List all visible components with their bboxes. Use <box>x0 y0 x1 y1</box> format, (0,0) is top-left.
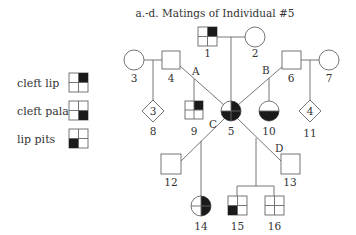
svg-text:13: 13 <box>283 176 296 188</box>
legend-item-lip-pits: lip pits <box>17 129 88 148</box>
individual-3: 3 <box>124 50 144 84</box>
mating-label-a: A <box>191 65 200 77</box>
mating-label-b: B <box>262 64 270 76</box>
individual-1: 1 <box>198 27 217 59</box>
individual-10: 10 <box>259 101 279 137</box>
svg-text:14: 14 <box>194 220 208 232</box>
svg-text:4: 4 <box>168 72 175 84</box>
svg-text:cleft lip: cleft lip <box>17 77 59 90</box>
svg-text:3: 3 <box>150 105 157 117</box>
svg-text:15: 15 <box>231 220 244 232</box>
individual-9: 9 <box>185 101 203 137</box>
legend-item-cleft-lip: cleft lip <box>17 73 88 92</box>
svg-text:1: 1 <box>204 47 211 59</box>
svg-text:8: 8 <box>150 125 157 137</box>
individual-12: 12 <box>161 154 181 188</box>
individual-11: 4 11 <box>299 100 321 139</box>
svg-text:lip pits: lip pits <box>17 133 56 146</box>
individual-14: 14 <box>191 196 211 232</box>
svg-text:10: 10 <box>262 125 275 137</box>
legend: cleft lip cleft palate lip pits <box>17 73 88 148</box>
svg-text:11: 11 <box>303 127 316 139</box>
legend-item-cleft-palate: cleft palate <box>17 101 88 120</box>
svg-text:12: 12 <box>164 176 177 188</box>
individual-2: 2 <box>245 27 265 59</box>
individual-15: 15 <box>228 196 247 232</box>
svg-text:2: 2 <box>252 47 259 59</box>
individual-6: 6 <box>282 51 301 84</box>
svg-text:9: 9 <box>191 125 198 137</box>
svg-text:7: 7 <box>326 72 333 84</box>
svg-text:3: 3 <box>131 72 138 84</box>
diagram-title: a.-d. Matings of Individual #5 <box>135 7 294 19</box>
svg-text:6: 6 <box>288 72 295 84</box>
svg-text:5: 5 <box>228 125 235 137</box>
individual-8: 3 8 <box>142 100 164 137</box>
individual-7: 7 <box>319 50 339 84</box>
individual-4: 4 <box>162 51 180 84</box>
svg-text:16: 16 <box>268 220 282 232</box>
individual-13: 13 <box>281 154 300 188</box>
pedigree-diagram: a.-d. Matings of Individual #5 A B C D <box>0 0 356 235</box>
svg-text:4: 4 <box>307 105 314 117</box>
individual-16: 16 <box>265 196 284 232</box>
mating-label-c: C <box>209 118 217 130</box>
mating-label-d: D <box>275 142 283 154</box>
